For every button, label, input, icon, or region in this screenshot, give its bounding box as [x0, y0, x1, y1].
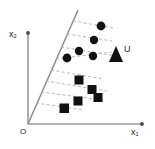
origin-label: O [20, 128, 26, 136]
y-axis-label: x2 [9, 30, 17, 40]
data-point-square [75, 76, 84, 85]
dashed-line [67, 34, 112, 41]
unknown-sample-label: U [124, 45, 131, 54]
decision-boundary-line [28, 10, 78, 124]
data-point-circle [63, 54, 72, 63]
data-point-circle [75, 47, 83, 55]
y-axis-cap [26, 31, 30, 35]
square-markers-group [60, 76, 103, 114]
dashed-line [73, 21, 113, 28]
data-point-square [88, 85, 97, 94]
circle-markers-group [63, 22, 106, 63]
data-point-square [94, 93, 103, 102]
x-axis-label: x1 [131, 128, 139, 138]
data-point-square [74, 97, 83, 106]
unknown-sample-triangle [109, 46, 123, 62]
data-point-circle [90, 36, 98, 44]
data-point-circle [89, 52, 97, 60]
x-axis-cap [140, 122, 144, 126]
data-point-circle [97, 22, 106, 31]
scatter-plot-figure: x2 x1 O U [0, 0, 155, 149]
data-point-square [60, 104, 70, 114]
